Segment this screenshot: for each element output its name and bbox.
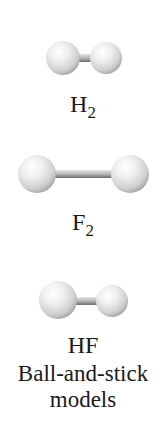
figure-caption: Ball-and-stick models	[0, 361, 166, 413]
f2-formula-subscript: 2	[85, 221, 94, 240]
h2-atom-left	[46, 41, 80, 75]
h2-atom-right	[90, 42, 122, 74]
f2-formula-base: F	[72, 209, 85, 235]
f2-atom-left	[18, 155, 56, 193]
hf-label: HF	[0, 333, 166, 357]
f2-atom-right	[111, 155, 149, 193]
f2-bond-stick	[52, 170, 116, 178]
f2-molecule-model	[0, 152, 166, 198]
hf-molecule-model	[0, 278, 166, 324]
h2-molecule-model	[0, 36, 166, 80]
hf-formula: HF	[68, 332, 99, 358]
hf-atom-fluorine	[39, 281, 77, 319]
hf-atom-hydrogen	[96, 285, 128, 317]
h2-formula-base: H	[70, 91, 87, 117]
h2-label: H2	[0, 92, 166, 116]
caption-line-1: Ball-and-stick	[0, 361, 166, 387]
h2-formula-subscript: 2	[87, 103, 96, 122]
f2-label: F2	[0, 210, 166, 234]
caption-line-2: models	[0, 387, 166, 413]
